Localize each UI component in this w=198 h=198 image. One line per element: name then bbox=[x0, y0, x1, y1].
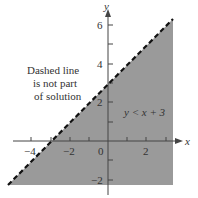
y-axis-label: y bbox=[103, 0, 109, 12]
annotation-line-2: is not part bbox=[33, 77, 77, 89]
x-tick-label: 0 bbox=[98, 145, 104, 157]
x-axis-arrow-icon bbox=[175, 138, 183, 144]
x-axis-label: x bbox=[184, 135, 190, 147]
x-tick-label: −2 bbox=[63, 145, 75, 157]
x-tick-label: −4 bbox=[24, 145, 36, 157]
x-tick-label: 2 bbox=[143, 145, 149, 157]
y-tick-label: 4 bbox=[97, 58, 103, 70]
y-tick-label: 2 bbox=[97, 96, 103, 108]
inequality-graph: −4 −2 0 2 6 4 2 −2 x y Dashed line is no… bbox=[0, 0, 198, 198]
inequality-label: y < x + 3 bbox=[123, 106, 166, 118]
y-tick-label: −2 bbox=[91, 174, 103, 186]
annotation-line-3: of solution bbox=[34, 90, 82, 102]
annotation-line-1: Dashed line bbox=[27, 64, 79, 76]
y-tick-label: 6 bbox=[97, 19, 103, 31]
